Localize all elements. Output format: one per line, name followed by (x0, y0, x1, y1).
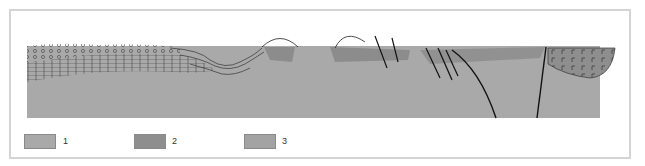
legend-swatch-3 (244, 134, 276, 149)
legend-label-2: 2 (172, 136, 177, 146)
legend-label-1: 1 (63, 136, 68, 146)
cross-section (0, 0, 645, 166)
legend-swatch-1 (24, 134, 56, 149)
legend-label-3: 3 (282, 136, 287, 146)
arc-anticline-1 (262, 39, 298, 48)
legend-swatch-2 (134, 134, 166, 149)
